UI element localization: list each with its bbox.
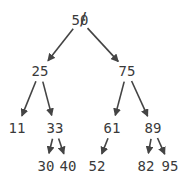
tree-node-40: 40 (60, 158, 77, 174)
edge-arrow-33-40 (59, 138, 64, 153)
tree-edges (0, 0, 186, 180)
tree-node-33: 33 (47, 120, 64, 136)
tree-node-61: 61 (104, 120, 121, 136)
edge-arrow-50-25 (48, 29, 73, 61)
edge-arrow-61-52 (102, 138, 108, 154)
edge-arrow-75-61 (115, 82, 124, 116)
edge-arrow-50-75 (88, 28, 119, 61)
tree-node-95: 95 (162, 158, 179, 174)
deleted-strike-mark: / (80, 10, 86, 28)
tree-node-52: 52 (89, 158, 106, 174)
edge-arrow-25-11 (22, 81, 36, 116)
edge-arrow-89-82 (148, 139, 151, 153)
tree-node-75: 75 (119, 63, 136, 79)
tree-node-25: 25 (32, 63, 49, 79)
tree-node-30: 30 (38, 158, 55, 174)
edge-arrow-25-33 (43, 82, 52, 116)
tree-node-82: 82 (138, 158, 155, 174)
tree-node-89: 89 (145, 120, 162, 136)
edge-arrow-89-95 (158, 138, 165, 154)
edge-arrow-33-30 (49, 139, 53, 154)
edge-arrow-75-89 (132, 81, 148, 116)
tree-node-11: 11 (9, 120, 26, 136)
